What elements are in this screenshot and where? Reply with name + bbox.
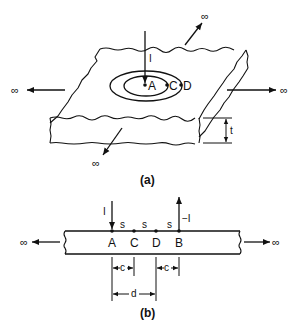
caption-b: (b)	[140, 306, 155, 320]
caption-a: (a)	[140, 173, 155, 187]
slab-3d-diagram: I A C D ∞ ∞ ∞ ∞ t (a)	[11, 10, 288, 187]
four-point-probe-figure: I A C D ∞ ∞ ∞ ∞ t (a) I −I	[0, 0, 299, 328]
strip-left-break	[64, 231, 66, 254]
spacing-label-2: s	[142, 219, 147, 230]
arrow-front-infinity	[103, 128, 122, 155]
dim-d-label: d	[131, 288, 137, 299]
slab-right-edge	[199, 50, 246, 119]
thickness-label: t	[230, 125, 233, 136]
slab-front-top-edge	[50, 116, 195, 122]
strip-right-break	[239, 231, 241, 254]
infinity-back-label: ∞	[201, 10, 209, 22]
point-d-label: D	[183, 79, 192, 93]
dim-c-right-label: c	[164, 262, 169, 273]
slab-right-back-side	[246, 50, 248, 68]
current-in-label: I	[103, 206, 106, 217]
infinity-left-label: ∞	[11, 84, 19, 96]
point-d-label-b: D	[152, 236, 161, 250]
infinity-left-label-b: ∞	[20, 236, 28, 248]
spacing-label-1: s	[120, 219, 125, 230]
cross-section-diagram: I −I A C D B s s s ∞ ∞ c c	[20, 197, 280, 320]
point-a-dot	[143, 83, 147, 87]
point-a-dot-b	[110, 229, 114, 233]
point-a-label-b: A	[108, 236, 116, 250]
infinity-right-label: ∞	[280, 84, 288, 96]
spacing-label-3: s	[167, 219, 172, 230]
point-c-label: C	[169, 79, 178, 93]
slab-front-left-side	[50, 118, 51, 143]
point-a-label: A	[148, 79, 156, 93]
infinity-right-label-b: ∞	[272, 236, 280, 248]
point-b-dot-b	[177, 229, 181, 233]
point-d-dot-b	[154, 229, 158, 233]
dim-c-left-label: c	[120, 262, 125, 273]
slab-front-bottom-edge	[50, 143, 195, 146]
slab-left-edge	[50, 49, 100, 123]
current-label: I	[149, 53, 152, 64]
current-out-label: −I	[182, 213, 191, 224]
slab-back-edge	[100, 47, 234, 52]
slab-right-bottom-edge	[199, 68, 248, 137]
infinity-front-label: ∞	[92, 157, 100, 169]
arrow-back-infinity	[185, 23, 202, 45]
point-c-label-b: C	[130, 236, 139, 250]
point-c-dot-b	[132, 229, 136, 233]
point-b-label-b: B	[175, 236, 183, 250]
slab-front-right-side	[199, 118, 200, 143]
